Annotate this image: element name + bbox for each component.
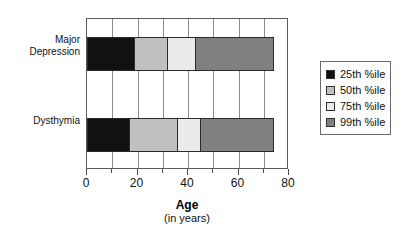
x-tick-10 [111,169,112,173]
x-tick-60 [238,169,239,175]
x-axis-title-main: Age [86,198,288,212]
y-axis-category-label-major-depression: Major Depression [8,34,80,57]
x-tick-label-80: 80 [273,176,303,190]
x-axis-title: Age (in years) [86,198,288,225]
x-tick-80 [288,169,289,175]
legend-item-label: 75th %ile [340,100,385,112]
legend-item: 99th %ile [326,114,385,130]
bar-segment-25th-ile [87,118,130,152]
x-tick-40 [187,169,188,175]
x-tick-30 [162,169,163,173]
bar-segment-25th-ile [87,37,135,71]
plot-area [86,18,288,169]
x-tick-label-40: 40 [172,176,202,190]
legend: 25th %ile50th %ile75th %ile99th %ile [320,61,391,135]
bar-dysthymia [87,118,274,152]
bar-segment-99th-ile [195,37,274,71]
legend-swatch-icon [326,102,335,111]
legend-item-label: 99th %ile [340,116,385,128]
x-tick-label-60: 60 [223,176,253,190]
y-axis-category-label-dysthymia: Dysthymia [8,115,80,127]
legend-item: 25th %ile [326,66,385,82]
x-tick-70 [263,169,264,173]
legend-swatch-icon [326,70,335,79]
legend-item: 50th %ile [326,82,385,98]
legend-item-label: 50th %ile [340,84,385,96]
x-tick-label-0: 0 [71,176,101,190]
legend-item: 75th %ile [326,98,385,114]
legend-swatch-icon [326,118,335,127]
legend-item-label: 25th %ile [340,68,385,80]
chart-figure: Major Depression Dysthymia 020406080 Age… [0,0,417,239]
bar-segment-99th-ile [200,118,274,152]
legend-swatch-icon [326,86,335,95]
bar-major-depression [87,37,274,71]
x-tick-0 [86,169,87,175]
bar-segment-75th-ile [167,37,196,71]
x-axis-title-sub: (in years) [86,212,288,225]
x-axis: 020406080 [86,169,288,199]
x-tick-50 [212,169,213,173]
bar-segment-50th-ile [134,37,168,71]
x-tick-label-20: 20 [122,176,152,190]
bar-segment-75th-ile [177,118,201,152]
bar-segment-50th-ile [129,118,178,152]
x-tick-20 [137,169,138,175]
